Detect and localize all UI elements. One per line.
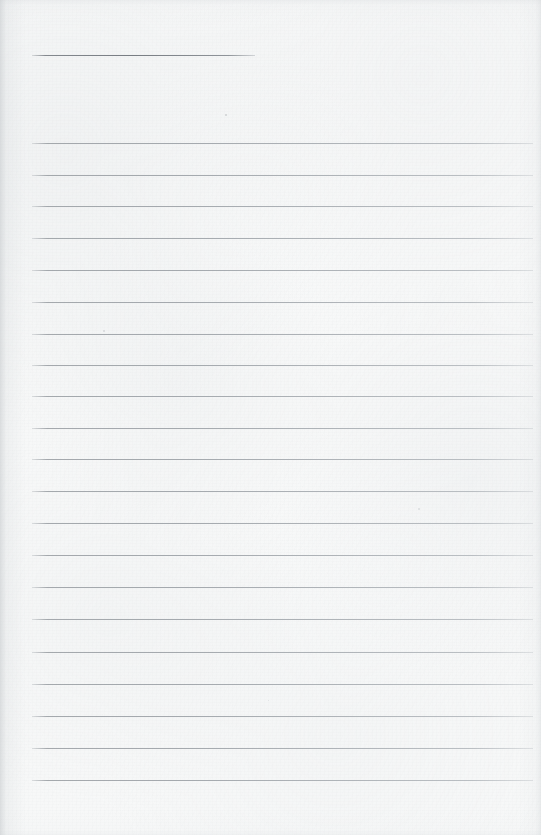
writing-line <box>32 555 533 556</box>
notebook-page <box>0 0 541 835</box>
writing-line <box>32 334 533 335</box>
title-rule <box>32 55 255 56</box>
writing-line <box>32 780 533 781</box>
ruled-lines-layer <box>0 0 541 835</box>
writing-line <box>32 428 533 429</box>
writing-line <box>32 302 533 303</box>
writing-line <box>32 491 533 492</box>
writing-line <box>32 143 533 144</box>
writing-line <box>32 619 533 620</box>
writing-line <box>32 459 533 460</box>
writing-line <box>32 365 533 366</box>
writing-line <box>32 716 533 717</box>
writing-line <box>32 270 533 271</box>
writing-line <box>32 523 533 524</box>
writing-line <box>32 396 533 397</box>
writing-line <box>32 587 533 588</box>
writing-line <box>32 206 533 207</box>
writing-line <box>32 684 533 685</box>
writing-line <box>32 652 533 653</box>
writing-line <box>32 748 533 749</box>
writing-line <box>32 175 533 176</box>
writing-line <box>32 238 533 239</box>
